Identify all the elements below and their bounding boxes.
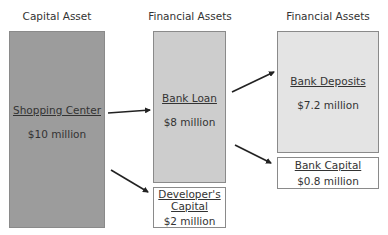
arrows-layer [0,0,388,235]
arrow-shopping-to-loan [108,110,150,113]
arrow-loan-to-deposits [232,72,274,92]
arrow-shopping-to-developers-capital [111,170,148,192]
arrow-loan-to-bank-capital [235,145,271,163]
